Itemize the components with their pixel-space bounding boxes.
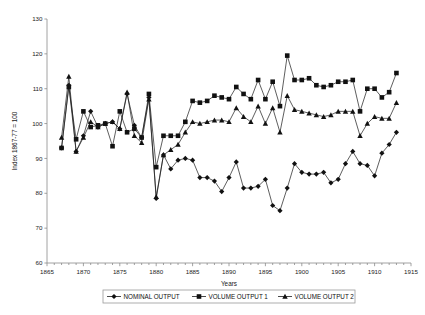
y-axis-tick-label: 110: [33, 85, 43, 92]
data-point: [270, 79, 275, 84]
legend-item-label: NOMINAL OUTPUT: [124, 293, 180, 300]
data-point: [154, 165, 159, 170]
data-point: [176, 133, 181, 138]
data-point: [205, 99, 210, 104]
data-point: [241, 92, 246, 97]
data-point: [394, 71, 399, 76]
x-axis-tick-label: 1915: [404, 268, 418, 275]
data-point: [227, 97, 232, 102]
chart-container: 60708090100110120130 1865187018751880188…: [0, 0, 425, 315]
legend-item-label: VOLUME OUTPUT 1: [209, 293, 269, 300]
x-axis-tick-label: 1880: [149, 268, 163, 275]
data-point: [125, 130, 130, 135]
data-point: [81, 109, 86, 114]
data-point: [59, 146, 64, 151]
plot-background: [0, 0, 425, 315]
data-point: [285, 53, 290, 58]
x-axis-tick-label: 1870: [77, 268, 91, 275]
x-axis-tick-label: 1910: [368, 268, 382, 275]
x-axis-tick-label: 1895: [259, 268, 273, 275]
x-axis-tick-label: 1890: [222, 268, 236, 275]
data-point: [350, 78, 355, 83]
data-point: [336, 79, 341, 84]
y-axis-tick-label: 60: [36, 259, 43, 266]
data-point: [168, 133, 173, 138]
data-point: [147, 92, 152, 97]
data-point: [161, 133, 166, 138]
y-axis-tick-label: 130: [32, 15, 43, 22]
data-point: [343, 79, 348, 84]
line-chart: 60708090100110120130 1865187018751880188…: [0, 0, 425, 315]
y-axis-title: Index 1867-77 = 100: [11, 111, 18, 170]
data-point: [198, 100, 203, 105]
x-axis-title: Years: [221, 280, 237, 287]
data-point: [292, 78, 297, 83]
x-axis-tick-label: 1885: [186, 268, 200, 275]
chart-legend: NOMINAL OUTPUTVOLUME OUTPUT 1VOLUME OUTP…: [103, 290, 355, 303]
x-axis-tick-label: 1900: [295, 268, 309, 275]
legend-marker-square-icon: [197, 294, 202, 299]
data-point: [212, 93, 217, 98]
data-point: [139, 135, 144, 140]
y-axis-tick-label: 70: [36, 224, 43, 231]
legend-item-label: VOLUME OUTPUT 2: [295, 293, 355, 300]
data-point: [278, 104, 283, 109]
data-point: [365, 86, 370, 91]
x-axis-tick-label: 1905: [331, 268, 345, 275]
data-point: [263, 97, 268, 102]
x-axis-tick-label: 1865: [40, 268, 54, 275]
data-point: [183, 120, 188, 125]
data-point: [372, 86, 377, 91]
data-point: [110, 144, 115, 149]
y-axis-tick-label: 80: [36, 189, 43, 196]
data-point: [321, 85, 326, 90]
data-point: [358, 109, 363, 114]
data-point: [234, 85, 239, 90]
data-point: [307, 76, 312, 81]
data-point: [380, 95, 385, 100]
data-point: [190, 99, 195, 104]
y-axis-tick-label: 120: [32, 50, 43, 57]
data-point: [314, 83, 319, 88]
data-point: [300, 78, 305, 83]
x-axis-tick-label: 1875: [113, 268, 127, 275]
y-axis-tick-label: 100: [32, 120, 43, 127]
data-point: [329, 83, 334, 88]
data-point: [256, 78, 261, 83]
data-point: [219, 95, 224, 100]
y-axis-tick-label: 90: [36, 155, 43, 162]
data-point: [249, 97, 254, 102]
data-point: [118, 109, 123, 114]
data-point: [387, 90, 392, 95]
